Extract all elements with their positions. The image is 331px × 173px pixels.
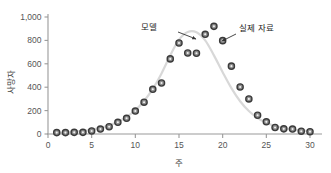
y-tick-label: 600 [27, 59, 41, 69]
data-point-center [195, 52, 197, 54]
data-point-center [82, 131, 84, 133]
annotation-label: 모델 [141, 22, 157, 32]
data-point-center [134, 110, 136, 112]
data-point-center [126, 117, 128, 119]
data-point-center [187, 52, 189, 54]
data-point-center [274, 126, 276, 128]
data-point-center [230, 65, 232, 67]
data-point-center [169, 58, 171, 60]
data-point-center [291, 128, 293, 130]
data-point-center [73, 131, 75, 133]
data-point-center [99, 128, 101, 130]
data-point-center [248, 98, 250, 100]
data-point-center [152, 88, 154, 90]
x-axis-title: 주 [175, 158, 183, 168]
y-tick-label: 200 [27, 106, 41, 116]
data-point-center [204, 33, 206, 35]
x-tick-label: 25 [262, 140, 272, 150]
data-point-center [257, 114, 259, 116]
data-point-center [309, 131, 311, 133]
data-point-center [56, 132, 58, 134]
y-tick-label: 1,000 [20, 12, 42, 22]
x-tick-label: 10 [131, 140, 141, 150]
data-point-center [160, 82, 162, 84]
y-axis-title: 사망자 [6, 70, 16, 94]
data-point-center [213, 25, 215, 27]
data-point-center [108, 126, 110, 128]
data-point-center [143, 101, 145, 103]
x-tick-label: 30 [305, 140, 315, 150]
annotation-label: 실제 자료 [239, 23, 274, 33]
data-point-center [178, 42, 180, 44]
data-point-center [117, 121, 119, 123]
data-point-center [300, 130, 302, 132]
y-tick-label: 800 [27, 35, 41, 45]
x-tick-label: 15 [174, 140, 184, 150]
x-tick-label: 5 [89, 140, 94, 150]
data-point-center [265, 121, 267, 123]
y-tick-label: 400 [27, 82, 41, 92]
y-tick-label: 0 [37, 129, 42, 139]
chart-container: 02004006008001,000 051015202530 모델실제 자료 … [0, 0, 331, 173]
x-tick-label: 0 [46, 140, 51, 150]
x-tick-label: 20 [218, 140, 228, 150]
deaths-per-week-scatter-chart: 02004006008001,000 051015202530 모델실제 자료 … [0, 0, 331, 173]
data-point-center [283, 128, 285, 130]
data-point-center [91, 130, 93, 132]
data-point-center [239, 86, 241, 88]
data-point-center [64, 132, 66, 134]
